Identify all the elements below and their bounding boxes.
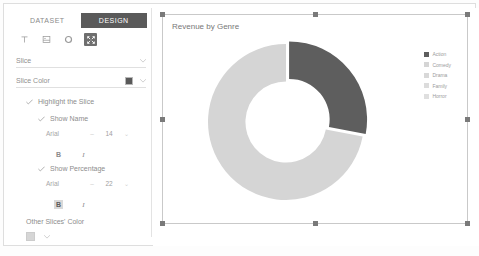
slice-color-label: Slice Color — [16, 77, 125, 84]
show-name-style-row: B I — [54, 150, 88, 159]
resize-handle-bottom-right[interactable] — [465, 221, 470, 226]
slice-color-row[interactable]: Slice Color — [16, 74, 146, 88]
legend-item[interactable]: Comedy — [424, 62, 451, 68]
chevron-down-icon[interactable]: ⌄ — [120, 130, 132, 137]
slice-field-row[interactable]: Slice — [16, 54, 146, 68]
text-tool-button[interactable] — [18, 33, 31, 46]
tab-design[interactable]: DESIGN — [81, 13, 148, 28]
design-sidebar: DATASET DESIGN — [8, 8, 152, 237]
chevron-down-icon[interactable] — [43, 233, 50, 240]
app-root: DATASET DESIGN — [0, 0, 479, 256]
chart-title: Revenue by Genre — [172, 22, 239, 31]
legend-item[interactable]: Horror — [424, 93, 451, 99]
donut-slice-action[interactable] — [289, 41, 367, 134]
legend-item[interactable]: Drama — [424, 72, 451, 78]
sidebar-content: DATASET DESIGN — [8, 8, 151, 237]
show-percentage-italic-button[interactable]: I — [79, 200, 88, 209]
shape-tool-button[interactable] — [62, 33, 75, 46]
show-name-bold-button[interactable]: B — [54, 150, 63, 159]
tab-dataset[interactable]: DATASET — [14, 13, 81, 28]
resize-handle-bottom-left[interactable] — [160, 221, 165, 226]
legend-label: Comedy — [432, 62, 451, 68]
legend-swatch — [424, 62, 429, 67]
circle-icon — [64, 35, 73, 44]
show-percentage-font-row: Arial – 22 ⌄ — [46, 178, 132, 189]
other-slices-color-label: Other Slices' Color — [26, 218, 84, 225]
show-name-checkbox[interactable]: Show Name — [38, 115, 88, 122]
resize-handle-top-left[interactable] — [160, 12, 165, 17]
donut-chart[interactable] — [201, 37, 371, 207]
text-icon — [20, 35, 29, 44]
image-tool-button[interactable] — [40, 33, 53, 46]
legend-label: Family — [432, 83, 447, 89]
show-percentage-label: Show Percentage — [50, 165, 105, 172]
sidebar-tabbar: DATASET DESIGN — [14, 13, 147, 28]
show-percentage-font-select[interactable]: Arial — [46, 180, 86, 187]
check-icon — [38, 165, 45, 172]
legend-label: Horror — [432, 93, 446, 99]
resize-handle-left-middle[interactable] — [160, 117, 165, 122]
resize-handle-top-right[interactable] — [465, 12, 470, 17]
legend-item[interactable]: Family — [424, 83, 451, 89]
legend-label: Action — [432, 51, 446, 57]
other-slices-color-swatch[interactable] — [26, 232, 35, 241]
resize-tool-button[interactable] — [84, 33, 97, 46]
image-icon — [42, 35, 51, 44]
font-separator: – — [86, 180, 98, 187]
show-name-label: Show Name — [50, 115, 88, 122]
highlight-slice-checkbox[interactable]: Highlight the Slice — [26, 98, 94, 105]
check-icon — [38, 115, 45, 122]
chart-legend: ActionComedyDramaFamilyHorror — [424, 51, 451, 99]
other-slices-color-row — [26, 232, 50, 241]
legend-label: Drama — [432, 72, 447, 78]
canvas-area: Revenue by Genre ActionComedyDramaFamily… — [153, 8, 479, 246]
font-separator: – — [86, 130, 98, 137]
show-percentage-style-row: B I — [54, 200, 88, 209]
legend-item[interactable]: Action — [424, 51, 451, 57]
legend-swatch — [424, 52, 429, 57]
show-name-font-row: Arial – 14 ⌄ — [46, 128, 132, 139]
show-percentage-font-size[interactable]: 22 — [98, 180, 120, 187]
show-name-italic-button[interactable]: I — [79, 150, 88, 159]
chevron-down-icon[interactable]: ⌄ — [120, 180, 132, 187]
chevron-down-icon[interactable] — [139, 77, 146, 84]
check-icon — [26, 98, 33, 105]
editor-window: DATASET DESIGN — [3, 3, 476, 246]
resize-handle-top-middle[interactable] — [313, 12, 318, 17]
legend-swatch — [424, 83, 429, 88]
slice-color-swatch[interactable] — [125, 77, 133, 85]
resize-arrows-icon — [86, 35, 96, 45]
show-percentage-checkbox[interactable]: Show Percentage — [38, 165, 105, 172]
chevron-down-icon[interactable] — [139, 57, 146, 64]
show-name-font-size[interactable]: 14 — [98, 130, 120, 137]
donut-chart-svg[interactable] — [201, 37, 371, 207]
slice-field-label: Slice — [16, 57, 139, 64]
legend-swatch — [424, 94, 429, 99]
highlight-slice-label: Highlight the Slice — [38, 98, 94, 105]
resize-handle-right-middle[interactable] — [465, 117, 470, 122]
legend-swatch — [424, 73, 429, 78]
chart-widget[interactable]: Revenue by Genre ActionComedyDramaFamily… — [162, 14, 468, 224]
resize-handle-bottom-middle[interactable] — [313, 221, 318, 226]
sidebar-toolbar — [18, 32, 138, 47]
show-percentage-bold-button[interactable]: B — [54, 200, 63, 209]
show-name-font-select[interactable]: Arial — [46, 130, 86, 137]
